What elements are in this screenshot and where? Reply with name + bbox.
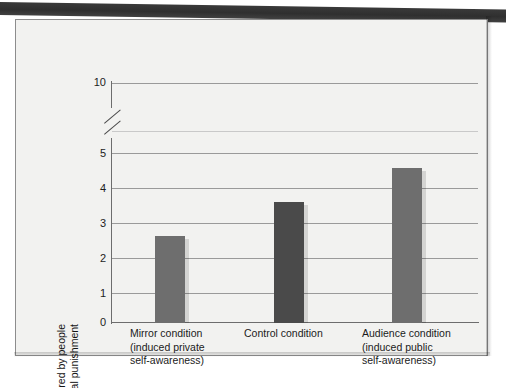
x-label-mirror-condition: Mirror condition (induced private self-a… — [130, 327, 205, 368]
x-label-control-line-1: Control condition — [244, 327, 323, 341]
bar-audience-shadow — [422, 171, 426, 323]
page-edge-shadow-bottom — [14, 352, 490, 357]
plot-area — [112, 83, 478, 323]
bar-mirror-condition[interactable] — [155, 236, 185, 323]
y-axis-tick-labels: 10 5 4 3 2 1 0 — [82, 20, 106, 357]
gridline-break — [112, 131, 478, 132]
y-tick-label-4: 4 — [84, 183, 106, 194]
scanned-page: Mean shock level administered by people … — [0, 0, 506, 388]
y-tick-label-10: 10 — [84, 77, 106, 88]
bar-audience-condition[interactable] — [392, 168, 422, 323]
gridline-10 — [112, 83, 478, 84]
gridline-5 — [112, 153, 478, 154]
bar-mirror-shadow — [185, 239, 189, 323]
y-tick-label-1: 1 — [84, 288, 106, 299]
bar-control-condition[interactable] — [274, 202, 304, 323]
bar-control-shadow — [304, 205, 308, 323]
bar-audience-body — [392, 168, 422, 323]
x-label-audience-line-1: Audience condition — [362, 327, 451, 341]
page-edge-shadow-right — [486, 16, 492, 356]
y-tick-label-0: 0 — [84, 317, 106, 328]
x-label-mirror-line-1: Mirror condition — [130, 327, 205, 341]
x-axis-category-labels: Mirror condition (induced private self-a… — [112, 327, 482, 387]
y-axis-title: Mean shock level administered by people … — [54, 66, 84, 326]
x-label-audience-condition: Audience condition (induced public self-… — [362, 327, 451, 368]
y-tick-label-2: 2 — [84, 253, 106, 264]
bar-control-body — [274, 202, 304, 323]
y-tick-label-5: 5 — [84, 148, 106, 159]
figure-frame: Mean shock level administered by people … — [15, 19, 488, 356]
bar-mirror-body — [155, 236, 185, 323]
y-tick-label-3: 3 — [84, 218, 106, 229]
x-label-control-condition: Control condition — [244, 327, 323, 341]
